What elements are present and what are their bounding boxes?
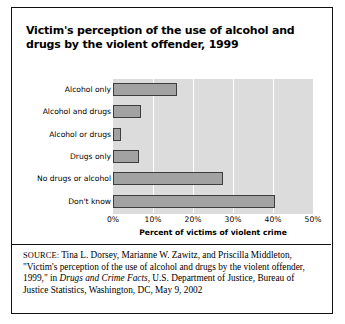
- bar-row: [113, 79, 313, 101]
- bar-row: [113, 146, 313, 168]
- chart-plot: Alcohol onlyAlcohol and drugsAlcohol or …: [12, 72, 332, 244]
- source-divider: [12, 244, 331, 245]
- bar: [113, 105, 141, 118]
- bar-row: [113, 168, 313, 190]
- bar-row: [113, 101, 313, 123]
- bar-row: [113, 124, 313, 146]
- bar-row: [113, 191, 313, 213]
- category-label: Alcohol only: [12, 79, 111, 101]
- x-tick-label: 40%: [258, 215, 288, 224]
- bar: [113, 172, 223, 185]
- x-axis-tick-labels: 0%10%20%30%40%50%: [113, 215, 313, 227]
- chart-title: Victim's perception of the use of alcoho…: [26, 24, 316, 52]
- x-axis-line: [113, 213, 313, 214]
- source-publication-title: Drugs and Crime Facts: [60, 273, 148, 283]
- x-axis-title: Percent of victims of violent crime: [113, 228, 313, 237]
- x-tick-label: 20%: [178, 215, 208, 224]
- bar: [113, 195, 275, 208]
- x-tick-label: 0%: [98, 215, 128, 224]
- category-label: Don't know: [12, 191, 111, 213]
- x-tick-label: 50%: [298, 215, 328, 224]
- figure-frame: Victim's perception of the use of alcoho…: [11, 7, 333, 314]
- plot-area: [113, 79, 313, 213]
- source-note: SOURCE: Tina L. Dorsey, Marianne W. Zawi…: [23, 250, 319, 296]
- x-tick-label: 10%: [138, 215, 168, 224]
- category-label: No drugs or alcohol: [12, 168, 111, 190]
- category-label: Alcohol and drugs: [12, 101, 111, 123]
- category-label: Drugs only: [12, 146, 111, 168]
- source-kicker: SOURCE:: [23, 251, 59, 260]
- x-tick-label: 30%: [218, 215, 248, 224]
- bar: [113, 83, 177, 96]
- y-axis-category-labels: Alcohol onlyAlcohol and drugsAlcohol or …: [12, 79, 111, 213]
- bar: [113, 150, 139, 163]
- bar: [113, 128, 121, 141]
- category-label: Alcohol or drugs: [12, 124, 111, 146]
- gridline: [313, 79, 314, 213]
